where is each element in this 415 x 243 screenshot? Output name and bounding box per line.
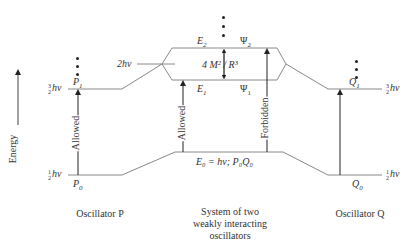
- p0-connector: [122, 152, 175, 175]
- continuation-dot: [76, 57, 79, 60]
- e1-label: E1: [197, 84, 207, 97]
- continuation-dot: [355, 68, 358, 71]
- continuation-dot: [222, 34, 225, 37]
- psi1-label: Ψ1: [240, 84, 251, 97]
- system-forbidden-label: Forbidden: [260, 96, 270, 139]
- oscillator-p-caption: Oscillator P: [60, 208, 140, 220]
- splitting-label: 4 M² / R³: [202, 60, 238, 70]
- system-caption: System of two weakly interacting oscilla…: [180, 206, 280, 242]
- crossing-energy-label: 2hν: [117, 59, 131, 69]
- p1-energy-label: 32hν: [48, 83, 61, 95]
- q1-state-label: Q1: [349, 77, 360, 90]
- p0-energy-label: 12hν: [48, 169, 61, 181]
- e2-label: E2: [197, 36, 207, 49]
- energy-axis-label: Energy: [8, 134, 18, 165]
- oscillator-q-caption: Oscillator Q: [320, 208, 400, 220]
- q0-state-label: Q0: [352, 179, 363, 192]
- psi2-label: Ψ2: [240, 36, 251, 49]
- continuation-dot: [222, 25, 225, 28]
- continuation-dot: [222, 16, 225, 19]
- q0-connector: [283, 152, 328, 175]
- p0-state-label: P0: [73, 179, 83, 192]
- ground-state-label: E₀ = hν; P₀Q₀: [196, 157, 253, 167]
- continuation-dot: [76, 65, 79, 68]
- q1-connector: [286, 64, 328, 89]
- p1-state-label: P1: [73, 77, 83, 90]
- p-allowed-label: Allowed: [71, 115, 81, 151]
- continuation-dot: [355, 60, 358, 63]
- system-allowed-label: Allowed: [177, 105, 187, 141]
- q0-energy-label: 12hν: [386, 169, 399, 181]
- q1-energy-label: 32hν: [386, 83, 399, 95]
